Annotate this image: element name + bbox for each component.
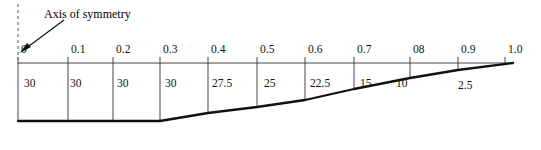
tick-label-0-9: 0.9 bbox=[461, 44, 475, 56]
tick-label-0-2: 0.2 bbox=[116, 44, 130, 56]
cell-value-label: 22.5 bbox=[310, 78, 330, 90]
hull-profile-line bbox=[18, 63, 513, 121]
tick-label-0-7: 0.7 bbox=[357, 44, 371, 56]
tick-label-0-8: 08 bbox=[413, 44, 425, 56]
cell-divider-group bbox=[18, 63, 458, 121]
cell-value-label: 30 bbox=[24, 78, 36, 90]
tick-label-0-1: 0.1 bbox=[71, 44, 85, 56]
cell-value-label: 30 bbox=[117, 78, 129, 90]
tick-label-1: 1.0 bbox=[508, 44, 522, 56]
cell-value-label: 27.5 bbox=[212, 78, 232, 90]
axis-of-symmetry-label: Axis of symmetry bbox=[44, 8, 131, 20]
cell-value-label: 30 bbox=[70, 78, 82, 90]
cell-value-label: 10 bbox=[396, 78, 408, 90]
tick-label-0-3: 0.3 bbox=[163, 44, 177, 56]
tick-label-0-4: 0.4 bbox=[211, 44, 225, 56]
tick-label-0-5: 0.5 bbox=[260, 44, 274, 56]
tick-label-0: 0 bbox=[21, 44, 27, 56]
diagram-canvas bbox=[0, 0, 541, 150]
cell-value-label: 25 bbox=[264, 78, 276, 90]
cell-value-label: 30 bbox=[165, 78, 177, 90]
cell-value-label: 15 bbox=[360, 78, 372, 90]
cell-value-label: 2.5 bbox=[458, 80, 472, 92]
tick-label-0-6: 0.6 bbox=[308, 44, 322, 56]
cross-section-diagram: Axis of symmetry 00.10.20.30.40.50.60.70… bbox=[0, 0, 541, 150]
